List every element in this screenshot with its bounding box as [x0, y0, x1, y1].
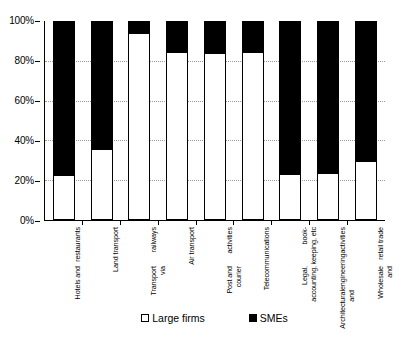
legend-item-large-firms[interactable]: Large firms [141, 313, 205, 324]
x-axis-label-line: Telecommunications [263, 227, 272, 305]
y-tick-label-0: 0% [20, 216, 34, 226]
x-axis-label-line: Air transport [188, 227, 197, 305]
x-tick-mark [309, 221, 310, 225]
x-axis-label-line: retail trade [377, 227, 386, 266]
bar-segment-large-firms [167, 52, 187, 219]
x-axis-label-line: activities [226, 227, 235, 266]
x-axis-label-line: restaurants [74, 227, 83, 266]
x-axis-label-line: Legal, accounting, [301, 266, 318, 305]
x-axis-label: Hotels andrestaurants [74, 227, 96, 305]
x-tick-mark [271, 221, 272, 225]
x-axis-label-line: engineering [339, 254, 348, 290]
bar-segment-smes [166, 21, 188, 220]
x-axis-label-line: activities [339, 227, 348, 254]
x-axis-label-line: Post and courier [226, 266, 243, 305]
x-tick-mark [120, 221, 121, 225]
bar-segment-large-firms [243, 52, 263, 219]
plot-area [44, 21, 385, 221]
bar-segment-large-firms [205, 53, 225, 219]
legend-label-large-firms: Large firms [152, 313, 205, 324]
legend-label-smes: SMEs [260, 313, 288, 324]
x-axis-label: Transport viarailways [150, 227, 172, 305]
x-axis-label-line: Land transport [112, 227, 121, 305]
bar-group [91, 21, 113, 220]
x-axis-ticks [44, 221, 385, 226]
x-axis-label: Wholesale andretail trade [377, 227, 399, 305]
y-axis: 100% 80% 60% 40% 20% 0% [0, 21, 40, 221]
y-tick-label-100: 100% [9, 16, 34, 26]
bar-segment-large-firms [318, 173, 338, 219]
bar-segment-smes [204, 21, 226, 220]
bar-group [355, 21, 377, 220]
x-axis-label-line: Hotels and [74, 266, 83, 305]
x-axis-label: Telecommunications [263, 227, 285, 305]
bar-segment-large-firms [356, 161, 376, 219]
legend-item-smes[interactable]: SMEs [249, 313, 288, 324]
white-square-icon [141, 314, 149, 322]
y-tick-label-20: 20% [15, 176, 34, 186]
x-axis-label: Architectural andengineeringactivities [339, 227, 361, 305]
y-tick-mark-0 [35, 221, 40, 222]
bar-segment-smes [279, 21, 301, 220]
y-tick-mark-40 [35, 141, 40, 142]
bar-segment-smes [355, 21, 377, 220]
x-axis-label-line: book-keeping, etc [301, 227, 318, 266]
x-axis-label: Legal, accounting,book-keeping, etc [301, 227, 323, 305]
bar-segment-smes [317, 21, 339, 220]
black-square-icon [249, 314, 257, 322]
x-tick-mark [158, 221, 159, 225]
x-axis-label-line: Transport via [150, 266, 167, 305]
y-tick-label-40: 40% [15, 136, 34, 146]
bar-segment-smes [242, 21, 264, 220]
bars-layer [45, 21, 385, 220]
bar-group [128, 21, 150, 220]
x-tick-mark [196, 221, 197, 225]
bar-segment-smes [128, 21, 150, 220]
x-axis-label: Land transport [112, 227, 134, 305]
y-tick-mark-20 [35, 181, 40, 182]
bar-group [242, 21, 264, 220]
y-tick-label-60: 60% [15, 96, 34, 106]
x-axis-labels: Hotels andrestaurantsLand transportTrans… [44, 227, 385, 305]
x-axis-label: Post and courieractivities [226, 227, 248, 305]
stacked-bar-chart: 100% 80% 60% 40% 20% 0% Hotels andrestau… [0, 0, 403, 345]
y-tick-mark-60 [35, 101, 40, 102]
y-tick-label-80: 80% [15, 56, 34, 66]
y-tick-mark-100 [35, 21, 40, 22]
chart-legend: Large firms SMEs [44, 309, 385, 327]
bar-segment-large-firms [54, 175, 74, 219]
x-axis-label-line: railways [150, 227, 159, 266]
bar-group [53, 21, 75, 220]
y-tick-mark-80 [35, 61, 40, 62]
x-tick-mark [347, 221, 348, 225]
bar-group [279, 21, 301, 220]
bar-group [317, 21, 339, 220]
x-axis-label-line: Wholesale and [377, 266, 394, 305]
bar-segment-smes [91, 21, 113, 220]
bar-segment-smes [53, 21, 75, 220]
x-tick-mark [233, 221, 234, 225]
x-tick-mark [82, 221, 83, 225]
bar-segment-large-firms [129, 33, 149, 219]
bar-segment-large-firms [280, 174, 300, 219]
x-axis-label: Air transport [188, 227, 210, 305]
bar-segment-large-firms [92, 149, 112, 219]
bar-group [204, 21, 226, 220]
bar-group [166, 21, 188, 220]
